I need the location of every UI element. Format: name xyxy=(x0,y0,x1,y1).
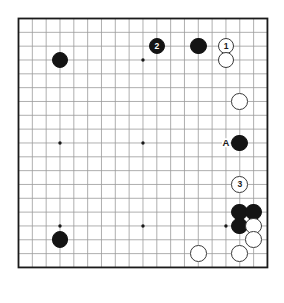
star-point xyxy=(224,224,227,227)
star-point xyxy=(141,141,144,144)
white-stone[interactable] xyxy=(231,245,248,262)
star-point xyxy=(58,141,61,144)
white-stone[interactable]: 3 xyxy=(231,176,248,193)
board-point-label-a[interactable]: A xyxy=(222,138,230,148)
move-number-label: 2 xyxy=(150,39,165,54)
move-number-label: 3 xyxy=(232,177,247,192)
white-stone[interactable] xyxy=(190,245,207,262)
black-stone[interactable]: 2 xyxy=(149,38,166,55)
star-point xyxy=(58,224,61,227)
white-stone[interactable] xyxy=(245,231,262,248)
white-stone[interactable] xyxy=(231,93,248,110)
star-point xyxy=(141,224,144,227)
black-stone[interactable] xyxy=(190,38,207,55)
go-board-diagram: 213 A xyxy=(0,0,284,303)
star-point xyxy=(141,58,144,61)
